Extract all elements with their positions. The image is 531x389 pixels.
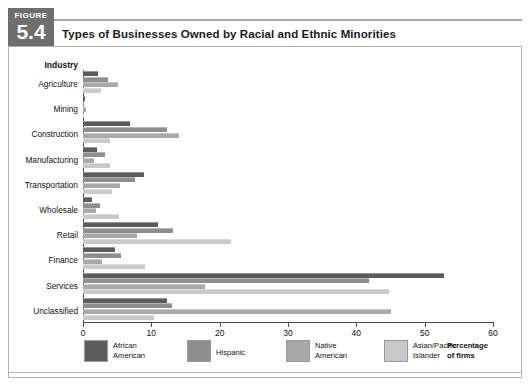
x-tick-label: 60 bbox=[478, 328, 508, 338]
plot-area: AgricultureMiningConstructionManufacturi… bbox=[83, 70, 493, 322]
x-tick bbox=[83, 323, 84, 327]
bar bbox=[83, 88, 101, 93]
bar bbox=[83, 102, 84, 107]
category-label: Services bbox=[46, 282, 78, 291]
bar bbox=[83, 284, 205, 289]
figure-page: FIGURE 5.4 Types of Businesses Owned by … bbox=[0, 0, 531, 389]
bar bbox=[83, 315, 154, 320]
category-label: Construction bbox=[31, 130, 78, 139]
bar bbox=[83, 298, 167, 303]
y-axis-title: Industry bbox=[44, 60, 78, 70]
x-tick bbox=[356, 323, 357, 327]
bar bbox=[83, 82, 118, 87]
bar bbox=[83, 228, 173, 233]
bar-group: Services bbox=[83, 273, 493, 298]
bar bbox=[83, 133, 179, 138]
x-axis-note: Percentage of firms bbox=[447, 341, 488, 360]
bar bbox=[83, 163, 110, 168]
bar-group: Transportation bbox=[83, 172, 493, 197]
page-title: Types of Businesses Owned by Racial and … bbox=[62, 28, 502, 40]
bar bbox=[83, 289, 389, 294]
category-label: Wholesale bbox=[39, 206, 78, 215]
bar bbox=[83, 96, 85, 101]
category-label: Manufacturing bbox=[25, 156, 78, 165]
chart-legend: African AmericanHispanicNative AmericanA… bbox=[84, 338, 424, 370]
bar bbox=[83, 214, 119, 219]
legend-swatch bbox=[84, 340, 108, 362]
bar bbox=[83, 121, 130, 126]
category-label: Agriculture bbox=[38, 80, 78, 89]
x-tick bbox=[493, 323, 494, 327]
x-tick-label: 40 bbox=[341, 328, 371, 338]
bar bbox=[83, 222, 158, 227]
bar bbox=[83, 247, 115, 252]
legend-swatch bbox=[187, 340, 211, 362]
bar-group: Mining bbox=[83, 96, 493, 121]
legend-label: African American bbox=[113, 341, 183, 360]
bar bbox=[83, 203, 100, 208]
bar bbox=[83, 273, 444, 278]
x-tick-label: 50 bbox=[410, 328, 440, 338]
bar bbox=[83, 189, 112, 194]
category-label: Finance bbox=[48, 256, 78, 265]
x-tick bbox=[220, 323, 221, 327]
bar-group: Construction bbox=[83, 121, 493, 146]
bar bbox=[83, 158, 94, 163]
bar-group: Retail bbox=[83, 222, 493, 247]
title-divider bbox=[54, 19, 522, 21]
legend-label: Native American bbox=[315, 341, 385, 360]
bar bbox=[83, 183, 120, 188]
figure-tag: FIGURE 5.4 bbox=[8, 8, 54, 46]
bar bbox=[83, 127, 167, 132]
category-label: Retail bbox=[57, 231, 78, 240]
bar-group: Finance bbox=[83, 247, 493, 272]
bar bbox=[83, 239, 231, 244]
bar bbox=[83, 253, 121, 258]
footer-divider bbox=[9, 372, 521, 373]
bar bbox=[83, 278, 369, 283]
bar-group: Wholesale bbox=[83, 197, 493, 222]
bar bbox=[83, 138, 110, 143]
x-tick-label: 30 bbox=[273, 328, 303, 338]
bar bbox=[83, 233, 137, 238]
bar-group: Manufacturing bbox=[83, 147, 493, 172]
bar bbox=[83, 177, 135, 182]
bar bbox=[83, 208, 96, 213]
bar bbox=[83, 264, 145, 269]
category-label: Unclassified bbox=[33, 307, 78, 316]
figure-tag-number: 5.4 bbox=[8, 21, 54, 43]
bar bbox=[83, 107, 86, 112]
bar bbox=[83, 113, 84, 118]
category-label: Mining bbox=[54, 105, 78, 114]
bar bbox=[83, 77, 108, 82]
bar bbox=[83, 309, 391, 314]
bar-group: Agriculture bbox=[83, 71, 493, 96]
bar bbox=[83, 152, 105, 157]
bar bbox=[83, 197, 92, 202]
x-tick bbox=[288, 323, 289, 327]
category-label: Transportation bbox=[25, 181, 78, 190]
bar bbox=[83, 259, 102, 264]
legend-label: Hispanic bbox=[216, 348, 286, 358]
bar bbox=[83, 147, 97, 152]
x-tick bbox=[425, 323, 426, 327]
bar bbox=[83, 303, 172, 308]
legend-swatch bbox=[384, 340, 408, 362]
x-tick bbox=[151, 323, 152, 327]
x-tick-label: 0 bbox=[68, 328, 98, 338]
bar-group: Unclassified bbox=[83, 298, 493, 323]
x-tick-label: 20 bbox=[205, 328, 235, 338]
legend-swatch bbox=[286, 340, 310, 362]
bar bbox=[83, 172, 144, 177]
x-tick-label: 10 bbox=[136, 328, 166, 338]
bar bbox=[83, 71, 98, 76]
